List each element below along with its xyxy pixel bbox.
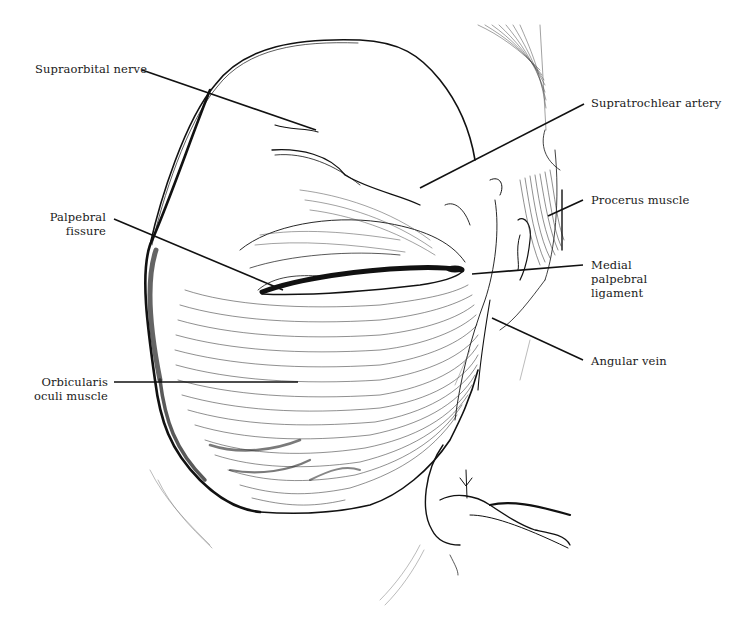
anatomy-figure: Supraorbital nerve Supratrochlear artery…	[0, 0, 739, 641]
label-angular-vein: Angular vein	[591, 354, 667, 368]
label-orbicularis-oculi-muscle: Orbicularis oculi muscle	[20, 375, 108, 403]
procerus-fibres	[520, 170, 564, 265]
label-palpebral-fissure: Palpebral fissure	[40, 210, 106, 238]
label-supratrochlear-artery: Supratrochlear artery	[591, 96, 721, 110]
label-medial-palpebral-ligament: Medial palpebral ligament	[591, 258, 647, 300]
palpebral-fissure-shape	[262, 268, 462, 292]
leader-supraorbital-nerve	[142, 70, 316, 130]
leader-medial-palpebral-ligament	[472, 265, 583, 274]
temple-hatch	[478, 25, 546, 130]
leader-lines	[114, 70, 584, 382]
leader-procerus-muscle	[548, 200, 583, 216]
label-procerus-muscle: Procerus muscle	[591, 193, 690, 207]
leader-palpebral-fissure	[114, 219, 283, 290]
nose-side	[455, 200, 497, 420]
label-supraorbital-nerve: Supraorbital nerve	[35, 62, 147, 76]
dissection-boundary-left	[145, 90, 260, 512]
dissection-boundary-top	[150, 40, 475, 245]
leader-supratrochlear-artery	[420, 104, 584, 188]
leader-angular-vein	[492, 318, 583, 360]
